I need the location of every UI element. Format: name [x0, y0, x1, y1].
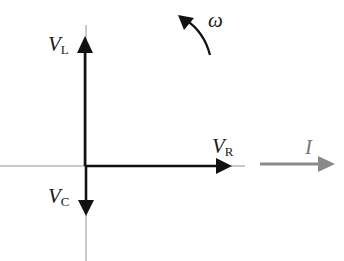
current-phasor-arrow [260, 156, 335, 172]
rotation-arrow [178, 15, 210, 55]
vl-label: VL [48, 32, 69, 57]
vr-phasor-arrow [86, 158, 232, 174]
phasor-diagram: ω VL VC VR I [0, 0, 344, 261]
vr-label: VR [212, 134, 234, 159]
vl-phasor-arrow [77, 36, 93, 166]
vc-phasor-arrow [78, 166, 94, 216]
vc-label: VC [48, 184, 70, 209]
diagram-svg: ω VL VC VR I [0, 0, 344, 261]
omega-label: ω [208, 8, 223, 32]
current-label: I [304, 135, 313, 159]
